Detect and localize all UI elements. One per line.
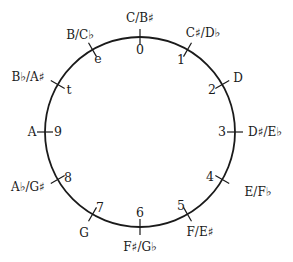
note-name-label: A♭/G♯ <box>11 181 45 193</box>
note-name-label: G <box>79 227 89 239</box>
note-name-label: D <box>233 72 243 84</box>
pitch-class-number: e <box>94 53 101 66</box>
pitch-class-number: 4 <box>206 171 214 184</box>
pitch-class-number: 9 <box>54 126 62 139</box>
pitch-class-clock-diagram: 0C/B♯1C♯/D♭2D3D♯/E♭4E/F♭5F/E♯6F♯/G♭7G8A♭… <box>0 0 293 262</box>
note-name-label: A <box>28 126 37 138</box>
tick-mark <box>51 81 65 89</box>
pitch-class-number: 8 <box>64 172 72 185</box>
tick-mark <box>51 176 65 184</box>
note-name-label: F♯/G♭ <box>123 241 156 253</box>
note-name-label: F/E♯ <box>187 226 214 238</box>
note-name-label: D♯/E♭ <box>248 126 282 138</box>
tick-mark <box>215 176 229 184</box>
pitch-class-number: t <box>66 84 71 97</box>
note-name-label: B♭/A♯ <box>12 71 45 83</box>
pitch-class-number: 6 <box>136 207 144 220</box>
pitch-class-number: 3 <box>218 126 226 139</box>
note-name-label: C/B♯ <box>126 12 154 24</box>
note-name-label: C♯/D♭ <box>186 27 220 39</box>
pitch-circle <box>45 37 235 227</box>
note-name-label: E/F♭ <box>245 186 272 198</box>
tick-mark <box>215 81 229 89</box>
pitch-class-number: 1 <box>177 54 185 67</box>
pitch-class-number: 7 <box>96 202 104 215</box>
pitch-class-number: 5 <box>177 200 185 213</box>
pitch-class-number: 0 <box>136 44 144 57</box>
pitch-class-number: 2 <box>208 84 216 97</box>
note-name-label: B/C♭ <box>66 29 94 41</box>
